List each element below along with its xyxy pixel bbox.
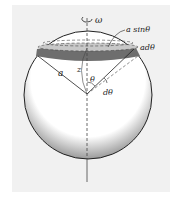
radius-label: a — [58, 68, 63, 78]
ring-top-ellipse — [38, 43, 138, 51]
z-label: z — [76, 65, 82, 74]
omega-label: ω — [95, 15, 103, 25]
theta-label: θ — [90, 75, 95, 84]
a-sin-theta-label: a sinθ — [126, 25, 150, 34]
dtheta-label: dθ — [103, 88, 113, 97]
sphere-diagram: ω a sinθ adθ a z θ dθ — [0, 0, 179, 202]
a-dtheta-label: adθ — [140, 43, 155, 52]
